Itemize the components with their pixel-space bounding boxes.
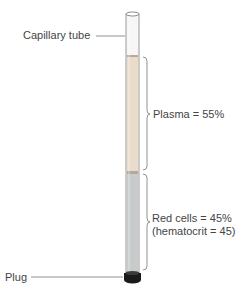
red-cells-brace <box>143 174 150 270</box>
tube-opening <box>126 12 139 16</box>
plug-top <box>126 271 140 275</box>
hematocrit-label: (hematocrit = 45) <box>152 225 235 238</box>
red-cells-label: Red cells = 45% <box>152 212 232 225</box>
capillary-tube-diagram <box>0 0 252 295</box>
plasma-label: Plasma = 55% <box>153 108 224 121</box>
plug-label: Plug <box>5 271 27 284</box>
capillary-tube-label: Capillary tube <box>23 29 90 42</box>
plasma-brace <box>143 57 150 170</box>
